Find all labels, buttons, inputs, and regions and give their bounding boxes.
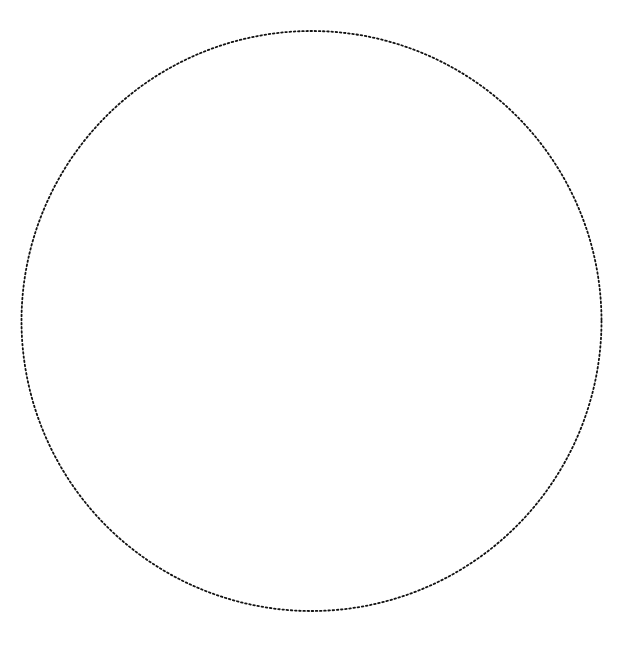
diagram-canvas [0,0,623,648]
background [0,0,623,648]
